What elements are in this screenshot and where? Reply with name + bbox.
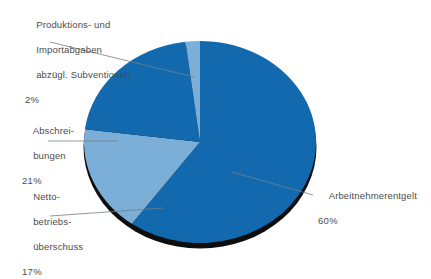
label-line-1: Abschrei- — [33, 125, 74, 136]
slice-label-nettobetriebsueberschuss: Netto- betriebs- überschuss 17% — [22, 178, 83, 279]
label-line-3: überschuss — [33, 241, 83, 252]
label-percent: 60% — [318, 215, 417, 228]
label-line-1: Netto- — [33, 191, 60, 202]
label-percent: 2% — [25, 94, 131, 107]
slice-label-arbeitnehmerentgelt: Arbeitnehmerentgelt 60% — [318, 177, 417, 253]
label-line-2: Importabgaben — [36, 44, 102, 55]
label-line-1: Arbeitnehmerentgelt — [329, 190, 417, 201]
label-line-1: Produktions- und — [36, 19, 110, 30]
label-line-2: bungen — [33, 150, 66, 161]
label-line-3: abzügl. Subventionen — [36, 69, 130, 80]
label-line-2: betriebs- — [33, 216, 71, 227]
label-percent: 17% — [22, 266, 83, 279]
